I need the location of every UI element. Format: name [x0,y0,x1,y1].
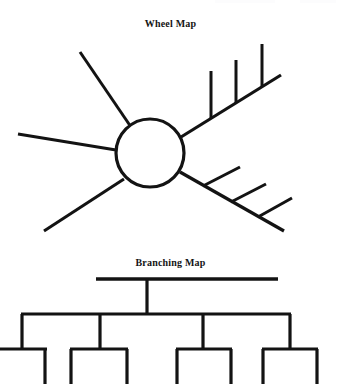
branching-map-diagram [0,0,341,386]
thinking-maps-worksheet: Wheel Map Branching Map [0,0,341,386]
